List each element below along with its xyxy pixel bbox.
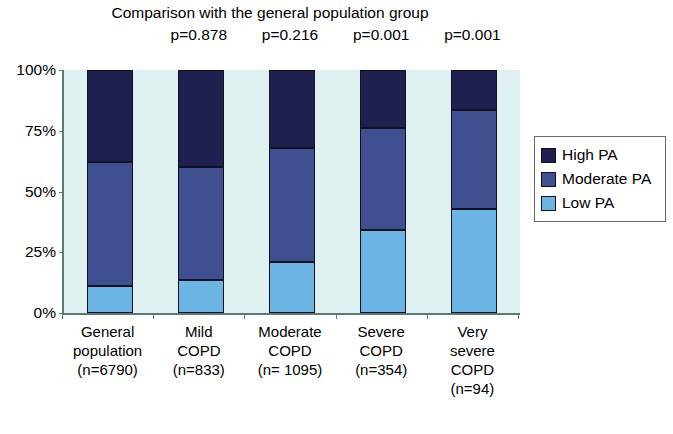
- bar-segment-moderate-pa: [178, 167, 224, 280]
- plot-area: [62, 70, 520, 315]
- bar-segment-low-pa: [360, 230, 406, 313]
- bar-segment-moderate-pa: [87, 162, 133, 286]
- x-axis-tick-mark: [518, 313, 519, 319]
- legend-color-swatch-icon: [541, 172, 556, 187]
- x-axis-label-line: Very: [417, 322, 527, 341]
- y-axis-tick-label: 75%: [2, 122, 56, 140]
- bar-segment-low-pa: [178, 280, 224, 313]
- bar-segment-moderate-pa: [269, 148, 315, 262]
- p-value-label: p=0.216: [262, 26, 318, 44]
- x-axis-category-label: VerysevereCOPD(n=94): [417, 322, 527, 398]
- y-axis-labels: 0%25%50%75%100%: [0, 70, 56, 313]
- p-value-label: p=0.001: [444, 26, 500, 44]
- x-axis-tick-mark: [244, 313, 245, 319]
- legend-item-label: Moderate PA: [562, 170, 651, 188]
- legend-item-label: High PA: [562, 146, 618, 164]
- bar-segment-low-pa: [269, 262, 315, 313]
- y-axis-tick-mark: [59, 131, 64, 132]
- legend-color-swatch-icon: [541, 196, 556, 211]
- p-value-label: p=0.001: [353, 26, 409, 44]
- x-axis-label-line: COPD: [417, 360, 527, 379]
- y-axis-tick-label: 0%: [2, 304, 56, 322]
- p-value-label: p=0.878: [171, 26, 227, 44]
- bar-segment-low-pa: [87, 286, 133, 313]
- x-axis-tick-mark: [336, 313, 337, 319]
- bar-segment-moderate-pa: [360, 128, 406, 230]
- y-axis-tick-mark: [59, 70, 64, 71]
- bar-segment-low-pa: [451, 209, 497, 313]
- stacked-bar: [451, 70, 497, 313]
- y-axis-tick-mark: [59, 252, 64, 253]
- stacked-bar: [87, 70, 133, 313]
- x-axis-tick-mark: [427, 313, 428, 319]
- y-axis-tick-label: 25%: [2, 243, 56, 261]
- legend-item: High PA: [541, 143, 660, 167]
- legend-color-swatch-icon: [541, 148, 556, 163]
- y-axis-tick-label: 50%: [2, 183, 56, 201]
- bar-segment-moderate-pa: [451, 110, 497, 208]
- stacked-bar: [360, 70, 406, 313]
- legend-item: Low PA: [541, 191, 660, 215]
- p-value-annotations: p=0.878p=0.216p=0.001p=0.001: [0, 26, 540, 46]
- y-axis-tick-label: 100%: [2, 61, 56, 79]
- x-axis-label-line: severe: [417, 341, 527, 360]
- x-axis-tick-mark: [62, 313, 63, 319]
- x-axis-tick-mark: [153, 313, 154, 319]
- legend-item-label: Low PA: [562, 194, 614, 212]
- bar-segment-high-pa: [178, 70, 224, 167]
- chart-legend: High PAModerate PALow PA: [534, 136, 666, 222]
- chart-title: Comparison with the general population g…: [0, 4, 540, 22]
- stacked-bar: [178, 70, 224, 313]
- stacked-bar: [269, 70, 315, 313]
- bar-segment-high-pa: [451, 70, 497, 110]
- y-axis-tick-mark: [59, 192, 64, 193]
- bar-segment-high-pa: [87, 70, 133, 162]
- x-axis-label-line: (n=94): [417, 379, 527, 398]
- chart-container: Comparison with the general population g…: [0, 0, 673, 434]
- legend-item: Moderate PA: [541, 167, 660, 191]
- bar-segment-high-pa: [360, 70, 406, 128]
- bar-segment-high-pa: [269, 70, 315, 148]
